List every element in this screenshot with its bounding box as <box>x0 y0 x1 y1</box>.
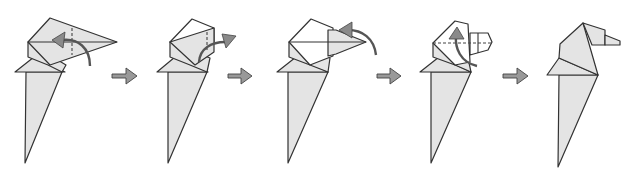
body-lower <box>431 72 471 163</box>
step-4-figure <box>420 21 492 163</box>
fold-arrow-head-icon <box>222 34 236 48</box>
step-1-figure <box>15 18 117 163</box>
next-step-arrow-icon <box>112 68 137 84</box>
origami-diagram <box>0 0 632 181</box>
step-5-figure <box>547 23 620 167</box>
next-step-arrow-icon <box>377 68 401 84</box>
next-step-arrow-icon <box>503 68 528 84</box>
snout <box>605 35 620 45</box>
step-3-figure <box>277 19 376 163</box>
body-lower <box>288 72 328 163</box>
body-lower <box>25 72 62 163</box>
snout-block <box>470 33 492 55</box>
next-step-arrow-icon <box>228 68 252 84</box>
body-lower <box>558 75 598 167</box>
body-lower <box>168 72 207 163</box>
step-2-figure <box>157 19 236 163</box>
